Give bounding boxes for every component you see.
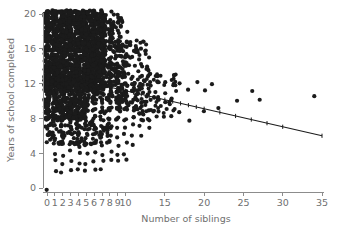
data-point bbox=[132, 115, 136, 119]
data-point bbox=[67, 48, 72, 53]
scatter-plot-figure: 0481216200123456789101520253035 Number o… bbox=[0, 0, 339, 234]
data-point bbox=[124, 99, 128, 103]
data-point bbox=[112, 12, 116, 16]
data-point bbox=[98, 136, 102, 140]
data-point bbox=[91, 30, 95, 34]
data-point bbox=[69, 159, 73, 163]
data-point bbox=[60, 116, 64, 120]
data-point bbox=[58, 88, 62, 92]
data-point bbox=[148, 72, 152, 76]
data-point bbox=[59, 170, 63, 174]
data-point bbox=[61, 154, 65, 158]
data-point bbox=[97, 70, 101, 74]
data-point bbox=[137, 57, 141, 61]
data-point bbox=[101, 118, 105, 122]
data-point bbox=[107, 121, 111, 125]
x-tick-label: 1 bbox=[52, 197, 58, 208]
data-point bbox=[82, 103, 86, 107]
data-point bbox=[74, 98, 78, 102]
data-point bbox=[124, 117, 128, 121]
chart-canvas: 0481216200123456789101520253035 Number o… bbox=[0, 0, 339, 234]
data-point bbox=[71, 80, 75, 84]
data-point bbox=[100, 132, 104, 136]
data-point bbox=[105, 134, 109, 138]
data-point bbox=[147, 108, 151, 112]
data-point bbox=[92, 88, 96, 92]
data-point bbox=[48, 23, 53, 28]
data-point bbox=[134, 44, 138, 48]
data-point bbox=[84, 88, 88, 92]
data-point bbox=[114, 25, 118, 29]
data-point bbox=[50, 136, 54, 140]
data-point bbox=[145, 77, 149, 81]
data-point bbox=[88, 127, 92, 131]
data-point bbox=[159, 104, 163, 108]
data-point bbox=[170, 78, 174, 82]
data-point bbox=[124, 106, 128, 110]
data-point bbox=[64, 44, 69, 49]
data-point bbox=[122, 81, 126, 85]
data-point bbox=[114, 118, 118, 122]
data-point bbox=[107, 70, 111, 74]
data-point bbox=[106, 80, 110, 84]
data-point bbox=[99, 59, 103, 63]
data-point bbox=[100, 54, 104, 58]
data-point bbox=[45, 127, 49, 131]
data-point bbox=[134, 104, 138, 108]
data-point bbox=[107, 139, 111, 143]
data-point bbox=[54, 169, 58, 173]
data-point bbox=[80, 41, 85, 46]
data-point bbox=[139, 118, 143, 122]
data-point bbox=[93, 150, 97, 154]
data-point bbox=[77, 92, 81, 96]
data-point bbox=[91, 67, 95, 71]
data-point bbox=[99, 28, 103, 32]
data-point bbox=[70, 34, 75, 39]
data-point bbox=[74, 70, 79, 75]
data-point bbox=[44, 85, 48, 89]
data-point bbox=[119, 24, 123, 28]
data-point bbox=[87, 93, 91, 97]
data-point bbox=[68, 142, 72, 146]
data-point bbox=[62, 97, 66, 101]
data-point bbox=[61, 136, 65, 140]
data-point bbox=[118, 100, 122, 104]
data-point bbox=[94, 98, 98, 102]
data-point bbox=[85, 132, 89, 136]
data-point bbox=[72, 21, 77, 26]
data-point bbox=[58, 99, 62, 103]
data-point bbox=[49, 85, 53, 89]
data-point bbox=[72, 130, 76, 134]
data-point bbox=[62, 60, 67, 65]
x-tick-label: 0 bbox=[44, 197, 50, 208]
data-point bbox=[115, 126, 119, 130]
x-tick-label: 30 bbox=[277, 197, 289, 208]
data-point bbox=[124, 91, 128, 95]
data-point bbox=[65, 131, 69, 135]
data-point bbox=[100, 110, 104, 114]
data-point bbox=[82, 14, 86, 18]
data-point bbox=[152, 78, 156, 82]
data-point bbox=[56, 70, 61, 75]
y-tick-label: 8 bbox=[30, 113, 36, 124]
data-point bbox=[85, 152, 89, 156]
data-point bbox=[83, 162, 87, 166]
data-point bbox=[45, 62, 50, 67]
data-point bbox=[73, 58, 78, 63]
data-point bbox=[89, 74, 93, 78]
data-point bbox=[68, 114, 72, 118]
data-point bbox=[106, 116, 110, 120]
data-point bbox=[130, 133, 134, 137]
y-tick-label: 12 bbox=[24, 78, 36, 89]
data-point bbox=[171, 109, 175, 113]
data-point bbox=[60, 38, 65, 43]
data-point bbox=[54, 33, 59, 38]
data-point bbox=[83, 98, 87, 102]
data-point bbox=[76, 11, 81, 16]
data-point bbox=[118, 106, 122, 110]
data-point bbox=[115, 135, 119, 139]
data-point bbox=[58, 10, 63, 15]
y-tick-label: 20 bbox=[24, 8, 36, 19]
data-point bbox=[155, 114, 159, 118]
data-point bbox=[55, 118, 59, 122]
